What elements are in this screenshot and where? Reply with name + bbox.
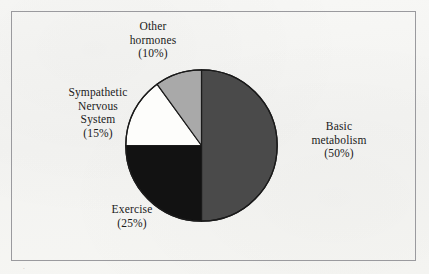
pie-label-exercise-percent: (25%) bbox=[80, 217, 184, 231]
pie-label-sympathetic-nervous-system-line3: System bbox=[52, 113, 144, 127]
pie-label-other-hormones-line1: Other bbox=[98, 20, 208, 34]
pie-label-other-hormones-line2: hormones bbox=[98, 34, 208, 48]
scan-artifact-speck: . bbox=[23, 265, 27, 270]
pie-label-basic-metabolism-line2: metabolism bbox=[286, 134, 392, 148]
pie-label-sympathetic-nervous-system-line2: Nervous bbox=[52, 100, 144, 114]
pie-label-other-hormones-percent: (10%) bbox=[98, 47, 208, 61]
pie-chart bbox=[125, 69, 278, 222]
pie-label-exercise: Exercise (25%) bbox=[80, 203, 184, 230]
pie-chart-svg bbox=[125, 69, 278, 222]
pie-label-exercise-line1: Exercise bbox=[80, 203, 184, 217]
pie-label-sympathetic-nervous-system-line1: Sympathetic bbox=[52, 86, 144, 100]
pie-label-basic-metabolism-line1: Basic bbox=[286, 120, 392, 134]
pie-slice-basic-metabolism bbox=[202, 70, 278, 221]
pie-label-other-hormones: Other hormones (10%) bbox=[98, 20, 208, 61]
pie-label-basic-metabolism-percent: (50%) bbox=[286, 147, 392, 161]
pie-label-basic-metabolism: Basic metabolism (50%) bbox=[286, 120, 392, 161]
pie-label-sympathetic-nervous-system-percent: (15%) bbox=[52, 127, 144, 141]
pie-label-sympathetic-nervous-system: Sympathetic Nervous System (15%) bbox=[52, 86, 144, 140]
figure-page: Other hormones (10%) Sympathetic Nervous… bbox=[0, 0, 429, 274]
